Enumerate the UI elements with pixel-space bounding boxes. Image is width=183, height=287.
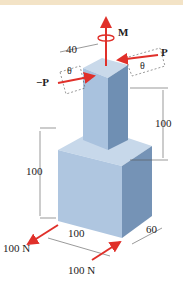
force-bottom-right-label: 100 N xyxy=(68,265,95,276)
force-left-label: −P xyxy=(36,77,49,88)
force-right-label: P xyxy=(161,47,168,58)
dim-upper-height: 100 xyxy=(155,118,172,129)
upper-column xyxy=(83,58,128,150)
force-right-arrow xyxy=(118,55,158,60)
force-bottom-right-arrow xyxy=(92,242,120,260)
dim-base-depth: 60 xyxy=(146,224,157,235)
dim-top-width: 40 xyxy=(66,44,77,55)
dim-lower-height: 100 xyxy=(26,166,43,177)
force-bottom-left-arrow xyxy=(28,225,58,244)
theta-right-label: θ xyxy=(140,61,145,71)
dim-base-width: 100 xyxy=(68,228,85,239)
moment-label: M xyxy=(118,27,128,38)
force-bottom-left-label: 100 N xyxy=(3,243,30,254)
theta-left-label: θ xyxy=(67,66,72,76)
